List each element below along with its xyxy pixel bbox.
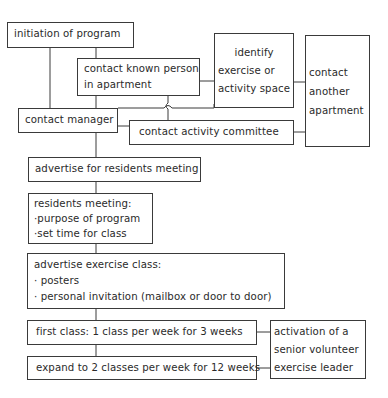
node-label: · posters	[34, 273, 278, 289]
node-contact-activity-committee: contact activity committee	[129, 120, 294, 145]
node-advertise-exercise-class: advertise exercise class: · posters · pe…	[27, 253, 285, 309]
node-first-class: first class: 1 class per week for 3 week…	[27, 320, 257, 345]
node-label: activity space	[218, 80, 290, 98]
node-label: first class: 1 class per week for 3 week…	[36, 323, 250, 341]
node-label: advertise for residents meeting	[35, 160, 194, 178]
node-label: initiation of program	[14, 25, 127, 43]
node-label: advertise exercise class:	[34, 257, 278, 273]
node-label: expand to 2 classes per week for 12 week…	[36, 359, 250, 377]
node-contact-manager: contact manager	[18, 108, 118, 133]
node-contact-another-apartment: contact another apartment	[305, 35, 370, 147]
node-expand-classes: expand to 2 classes per week for 12 week…	[27, 356, 257, 380]
node-contact-known-person: contact known person in apartment	[77, 58, 200, 96]
node-identify-exercise-space: identify exercise or activity space	[214, 33, 294, 108]
node-label: another	[309, 82, 366, 101]
node-label: residents meeting:	[34, 196, 147, 211]
node-label: exercise leader	[274, 359, 362, 377]
node-residents-meeting: residents meeting: ·purpose of program ·…	[28, 193, 153, 244]
node-senior-volunteer-leader: activation of a senior volunteer exercis…	[270, 320, 366, 379]
node-label: activation of a	[274, 323, 362, 341]
node-initiation-of-program: initiation of program	[7, 22, 134, 48]
node-label: contact known person	[84, 61, 193, 77]
node-label: in apartment	[84, 77, 193, 93]
node-label: senior volunteer	[274, 341, 362, 359]
node-label: contact manager	[25, 111, 111, 129]
node-label: contact	[309, 63, 366, 82]
node-label: ·purpose of program	[34, 211, 147, 226]
node-label: contact activity committee	[139, 123, 287, 141]
node-label: ·set time for class	[34, 226, 147, 241]
node-label: identify	[218, 44, 290, 62]
node-label: · personal invitation (mailbox or door t…	[34, 289, 278, 305]
node-label: exercise or	[218, 62, 290, 80]
node-label: apartment	[309, 101, 366, 120]
node-advertise-residents-meeting: advertise for residents meeting	[28, 157, 201, 182]
